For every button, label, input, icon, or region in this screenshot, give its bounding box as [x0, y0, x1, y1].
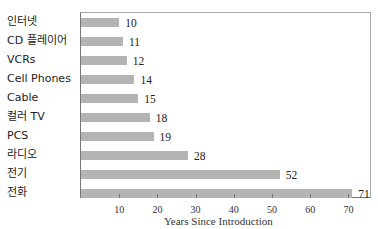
category-label: 전화	[7, 187, 27, 199]
x-tick	[272, 194, 273, 198]
value-label: 18	[156, 112, 168, 124]
value-label: 14	[140, 74, 152, 86]
x-tick	[157, 194, 158, 198]
x-tick	[310, 194, 311, 198]
category-label: VCRs	[7, 54, 36, 66]
x-tick	[234, 194, 235, 198]
value-label: 52	[286, 169, 298, 181]
category-label: Cable	[7, 92, 38, 104]
category-label: 컬러 TV	[7, 111, 45, 123]
x-tick-label: 60	[300, 204, 320, 215]
category-label: 라디오	[7, 149, 37, 161]
x-tick	[196, 194, 197, 198]
x-tick	[119, 194, 120, 198]
x-tick-label: 50	[262, 204, 282, 215]
x-tick-label: 40	[224, 204, 244, 215]
x-tick-label: 20	[147, 204, 167, 215]
value-label: 10	[125, 17, 137, 29]
bar	[81, 132, 154, 141]
x-axis-label: Years Since Introduction	[164, 215, 273, 227]
value-label: 19	[160, 131, 172, 143]
bar	[81, 37, 123, 46]
category-label: 전기	[7, 168, 27, 180]
bar	[81, 56, 127, 65]
category-label: 인터넷	[7, 16, 37, 28]
value-label: 15	[144, 93, 156, 105]
value-label: 11	[129, 36, 140, 48]
x-tick	[348, 194, 349, 198]
bar	[81, 75, 134, 84]
value-label: 12	[133, 55, 145, 67]
bar	[81, 189, 352, 198]
bar	[81, 94, 138, 103]
bar	[81, 170, 280, 179]
x-tick-label: 30	[186, 204, 206, 215]
bar	[81, 113, 150, 122]
category-label: CD 플레이어	[7, 35, 67, 47]
category-label: PCS	[7, 130, 28, 142]
category-label: Cell Phones	[7, 73, 71, 85]
x-tick-label: 10	[109, 204, 129, 215]
bar	[81, 151, 188, 160]
value-label: 28	[194, 150, 206, 162]
value-label: 71	[358, 188, 370, 200]
x-tick-label: 70	[338, 204, 358, 215]
bar	[81, 18, 119, 27]
